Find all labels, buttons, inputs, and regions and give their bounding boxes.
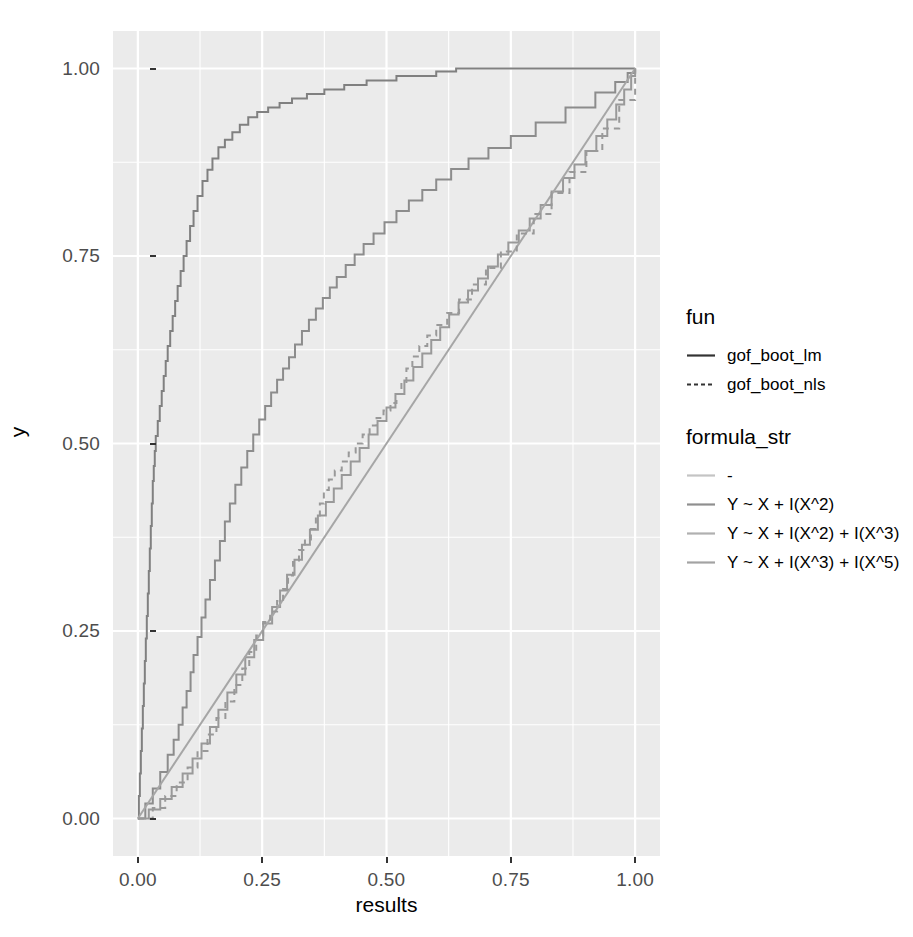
solid-line-icon: [686, 461, 716, 490]
y-axis-title: y: [6, 402, 30, 462]
legend-item-label: -: [727, 466, 733, 486]
x-tick-label: 0.75: [492, 869, 530, 891]
legend-title: fun: [686, 305, 911, 329]
x-tick-label: 0.50: [368, 869, 406, 891]
x-tick-mark: [137, 857, 139, 863]
solid-line-icon: [686, 519, 716, 548]
x-axis-title: results: [113, 893, 660, 917]
solid-line-icon: [686, 548, 716, 577]
legend-item-label: Y ~ X + I(X^2) + I(X^3): [727, 524, 899, 544]
dashed-line-icon: [686, 370, 716, 399]
x-tick-mark: [510, 857, 512, 863]
x-tick-label: 0.00: [119, 869, 157, 891]
legend-item[interactable]: Y ~ X + I(X^2): [686, 490, 911, 519]
legend-item[interactable]: gof_boot_nls: [686, 370, 911, 399]
legend-item[interactable]: -: [686, 461, 911, 490]
legend-item-label: gof_boot_nls: [727, 375, 826, 395]
solid-line-icon: [686, 341, 716, 370]
x-tick-mark: [386, 857, 388, 863]
legend-block: fungof_boot_lmgof_boot_nls: [686, 305, 911, 399]
ecdf-plot-figure: 0.000.250.500.751.00 0.000.250.500.751.0…: [0, 0, 913, 937]
legend-item-label: Y ~ X + I(X^3) + I(X^5): [727, 553, 899, 573]
legend-item-label: Y ~ X + I(X^2): [727, 495, 834, 515]
legend-item[interactable]: Y ~ X + I(X^2) + I(X^3): [686, 519, 911, 548]
legend-block: formula_str-Y ~ X + I(X^2)Y ~ X + I(X^2)…: [686, 425, 911, 577]
x-tick-mark: [261, 857, 263, 863]
legend-panel: fungof_boot_lmgof_boot_nlsformula_str-Y …: [686, 305, 911, 603]
legend-item-label: gof_boot_lm: [727, 346, 822, 366]
legend-item[interactable]: gof_boot_lm: [686, 341, 911, 370]
legend-title: formula_str: [686, 425, 911, 449]
x-tick-mark: [634, 857, 636, 863]
solid-line-icon: [686, 490, 716, 519]
legend-item[interactable]: Y ~ X + I(X^3) + I(X^5): [686, 548, 911, 577]
x-tick-label: 0.25: [243, 869, 281, 891]
x-tick-label: 1.00: [616, 869, 654, 891]
